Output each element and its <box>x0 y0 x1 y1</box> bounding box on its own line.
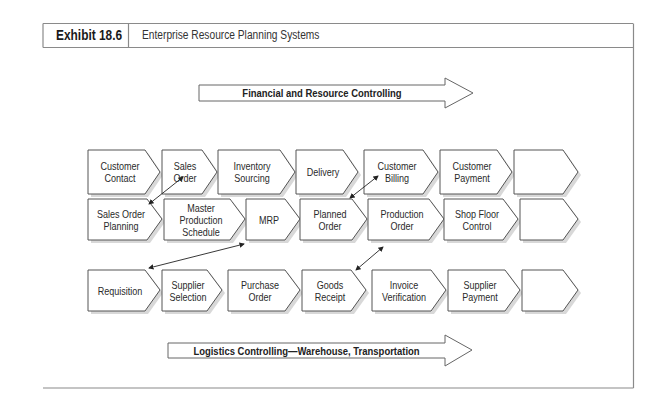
step-supplier-payment: Supplier Payment <box>452 270 507 311</box>
step-customer-payment: Customer Payment <box>444 150 499 194</box>
step-customer-billing: Customer Billing <box>369 150 426 194</box>
step-goods-receipt: Goods Receipt <box>306 270 354 311</box>
financial-controlling-label: Financial and Resource Controlling <box>216 85 428 101</box>
step-sales-order-planning: Sales Order Planning <box>93 199 150 240</box>
step-blank-production <box>524 199 567 240</box>
step-customer-contact: Customer Contact <box>92 150 147 194</box>
exhibit-title: Enterprise Resource Planning Systems <box>142 24 319 46</box>
step-delivery: Delivery <box>300 150 346 194</box>
step-production-order: Production Order <box>373 199 431 240</box>
step-purchase-order: Purchase Order <box>232 270 287 311</box>
step-blank-procurement <box>525 270 566 311</box>
link-production-order-to-goods-receipt <box>356 247 383 270</box>
step-invoice-verification: Invoice Verification <box>373 270 435 311</box>
link-mrp-to-requisition <box>149 244 244 268</box>
step-requisition: Requisition <box>92 270 147 311</box>
step-supplier-selection: Supplier Selection <box>164 270 212 311</box>
exhibit-number: Exhibit 18.6 <box>56 24 122 46</box>
step-shop-floor-control: Shop Floor Control <box>449 199 506 240</box>
step-mrp: MRP <box>249 199 289 240</box>
logistics-controlling-label: Logistics Controlling—Warehouse, Transpo… <box>187 343 425 358</box>
step-inventory-sourcing: Inventory Sourcing <box>223 150 281 194</box>
step-sales-order: Sales Order <box>165 150 205 194</box>
step-master-production-schedule: Master Production Schedule <box>169 199 233 240</box>
step-planned-order: Planned Order <box>304 199 356 240</box>
step-blank-sales <box>518 150 566 194</box>
